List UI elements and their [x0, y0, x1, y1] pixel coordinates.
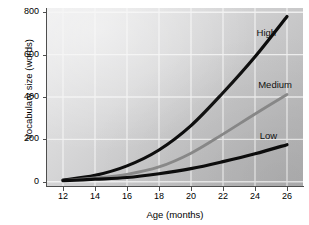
y-tick-mark [43, 97, 47, 98]
y-tick-label: 600 [24, 49, 39, 60]
chart-figure: Vocabulary size (words) 8006004002000 12… [0, 0, 309, 225]
x-tick-label: 26 [277, 191, 297, 202]
x-tick-label: 16 [117, 191, 137, 202]
x-tick-mark [63, 187, 64, 191]
x-tick-mark [287, 187, 288, 191]
x-tick-label: 22 [213, 191, 233, 202]
y-axis-title: Vocabulary size (words) [23, 5, 34, 175]
series-label-medium: Medium [258, 79, 292, 90]
y-tick-label: 800 [24, 6, 39, 17]
x-tick-mark [127, 187, 128, 191]
x-tick-label: 18 [149, 191, 169, 202]
x-tick-mark [255, 187, 256, 191]
y-tick-mark [43, 55, 47, 56]
y-tick-label: 400 [24, 91, 39, 102]
y-tick-mark [43, 12, 47, 13]
x-tick-label: 12 [53, 191, 73, 202]
y-tick-mark [43, 182, 47, 183]
y-tick-label: 200 [24, 133, 39, 144]
x-tick-label: 20 [181, 191, 201, 202]
x-tick-mark [95, 187, 96, 191]
y-tick-label: 0 [34, 176, 39, 187]
x-tick-mark [191, 187, 192, 191]
x-tick-mark [223, 187, 224, 191]
series-label-high: High [257, 27, 277, 38]
series-label-low: Low [260, 130, 277, 141]
x-axis-spine [46, 186, 304, 187]
x-axis-title: Age (months) [47, 209, 303, 220]
y-tick-mark [43, 139, 47, 140]
x-tick-label: 14 [85, 191, 105, 202]
x-tick-label: 24 [245, 191, 265, 202]
x-tick-mark [159, 187, 160, 191]
